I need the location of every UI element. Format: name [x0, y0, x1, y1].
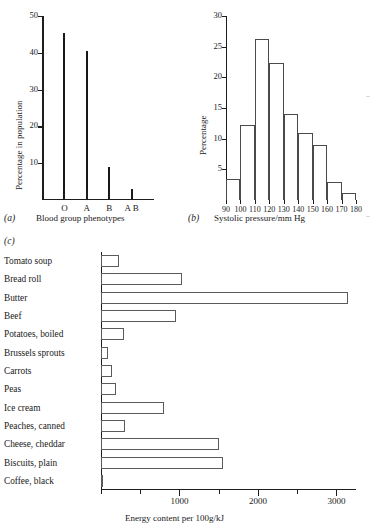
chart-b-y-tick	[222, 139, 227, 140]
scan-artifact	[366, 216, 370, 217]
chart-b-y-tick	[222, 169, 227, 170]
chart-a-y-tick	[38, 90, 43, 91]
chart-a-x-tick-label: A	[75, 204, 99, 213]
chart-b-bar	[284, 114, 298, 200]
chart-a-x-tick-label: A B	[120, 204, 144, 213]
chart-panel-c: (c) 100020003000 Energy content per 100g…	[0, 236, 372, 532]
chart-c-category-label: Tomato soup	[4, 256, 52, 266]
chart-a-y-tick-label: 50	[20, 11, 38, 20]
chart-a-x-tick-label: O	[52, 204, 76, 213]
chart-b-x-tick	[298, 200, 299, 204]
chart-c-x-axis-title: Energy content per 100g/kJ	[125, 513, 224, 523]
chart-a-x-axis-title: Blood group phenotypes	[36, 213, 125, 223]
chart-a-x-tick	[131, 189, 133, 200]
chart-a-y-axis	[42, 16, 44, 200]
chart-c-category-label: Ice cream	[4, 403, 40, 413]
chart-c-category-label: Biscuits, plain	[4, 458, 57, 468]
chart-b-y-tick-label: 30	[204, 11, 222, 20]
chart-a-y-axis-title: Percentage in population	[14, 101, 24, 190]
chart-b-bar	[255, 39, 269, 200]
chart-c-category-label: Cheese, cheddar	[4, 439, 65, 449]
chart-b-x-tick	[356, 200, 357, 204]
chart-c-category-label: Butter	[4, 293, 27, 303]
chart-b-x-tick-label: 180	[347, 205, 365, 214]
chart-a-y-tick	[38, 16, 43, 17]
chart-a-y-tick-label: 30	[20, 85, 38, 94]
chart-c-category-label: Potatoes, boiled	[4, 329, 63, 339]
chart-a-plot-area: 1020304050OABA B	[42, 16, 154, 200]
chart-c-x-tick-label: 1000	[163, 497, 195, 506]
chart-c-bar	[101, 438, 219, 450]
chart-c-bar	[101, 292, 348, 304]
chart-b-y-tick	[222, 108, 227, 109]
chart-c-bar	[101, 273, 182, 285]
chart-a-x-axis	[42, 199, 154, 201]
chart-c-x-tick-label: 2000	[242, 497, 274, 506]
chart-a-y-tick	[38, 53, 43, 54]
chart-b-y-tick-label: 15	[204, 103, 222, 112]
chart-c-x-tick	[219, 490, 220, 494]
chart-b-x-tick	[342, 200, 343, 204]
chart-b-x-tick	[240, 200, 241, 204]
chart-c-plot-area: 100020003000	[101, 252, 356, 490]
chart-c-category-label: Peas	[4, 384, 21, 394]
chart-panel-a: Percentage in population 1020304050OABA …	[0, 0, 190, 232]
panel-letter-c: (c)	[4, 236, 15, 246]
chart-a-bar	[86, 51, 88, 200]
chart-panel-b: Percentage 51015202530901001101201301401…	[186, 0, 372, 232]
chart-c-x-tick	[140, 490, 141, 494]
chart-b-bar	[298, 133, 312, 200]
chart-a-y-tick-label: 20	[20, 121, 38, 130]
panel-letter-b: (b)	[188, 213, 199, 223]
chart-b-bar	[269, 63, 283, 200]
chart-b-x-tick	[269, 200, 270, 204]
chart-c-category-label: Carrots	[4, 366, 31, 376]
chart-c-x-tick	[101, 490, 102, 494]
chart-a-y-tick-label: 10	[20, 158, 38, 167]
chart-b-bar	[313, 145, 327, 200]
chart-b-y-tick-label: 10	[204, 134, 222, 143]
chart-a-y-tick	[38, 126, 43, 127]
panel-letter-a: (a)	[4, 213, 15, 223]
chart-b-y-tick-label: 20	[204, 72, 222, 81]
chart-c-category-label: Peaches, canned	[4, 421, 65, 431]
chart-b-x-tick	[255, 200, 256, 204]
chart-c-bar	[101, 310, 176, 322]
chart-a-x-tick	[109, 189, 111, 200]
chart-c-x-tick	[297, 490, 298, 494]
chart-c-bar	[101, 255, 119, 267]
chart-c-bar	[101, 383, 116, 395]
chart-a-x-tick	[64, 189, 66, 200]
chart-a-x-tick	[86, 189, 88, 200]
chart-c-category-label: Brussels sprouts	[4, 348, 65, 358]
chart-a-y-tick-label: 40	[20, 48, 38, 57]
chart-b-x-axis-title: Systolic pressure/mm Hg	[214, 213, 305, 223]
chart-b-x-tick	[226, 200, 227, 204]
chart-c-bar	[101, 347, 108, 359]
chart-c-bar	[101, 475, 103, 487]
chart-c-category-label: Coffee, black	[4, 476, 54, 486]
chart-b-x-tick	[327, 200, 328, 204]
chart-c-bar	[101, 457, 223, 469]
chart-c-bar	[101, 420, 125, 432]
chart-b-y-tick	[222, 16, 227, 17]
chart-b-y-tick-label: 5	[204, 164, 222, 173]
chart-b-bar	[240, 125, 254, 200]
chart-b-bar	[342, 193, 356, 200]
chart-c-bar	[101, 328, 124, 340]
chart-a-y-tick	[38, 163, 43, 164]
chart-b-x-tick	[313, 200, 314, 204]
chart-c-category-label: Bread roll	[4, 274, 41, 284]
chart-c-bar	[101, 365, 112, 377]
chart-b-y-tick-label: 25	[204, 42, 222, 51]
chart-b-plot-area: 5101520253090100110120130140150160170180	[226, 16, 356, 200]
chart-c-category-label: Beef	[4, 311, 22, 321]
chart-c-x-tick-label: 3000	[320, 497, 352, 506]
chart-b-y-tick	[222, 77, 227, 78]
chart-a-x-tick-label: B	[97, 204, 121, 213]
chart-b-y-tick	[222, 47, 227, 48]
chart-b-bar	[226, 179, 240, 200]
chart-b-x-tick	[284, 200, 285, 204]
chart-b-bar	[327, 182, 341, 200]
chart-a-bar	[63, 33, 65, 200]
